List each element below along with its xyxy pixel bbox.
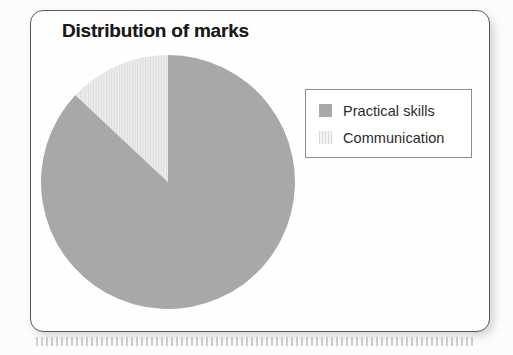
scan-artifact-strip (36, 337, 476, 346)
legend-item-communication: Communication (306, 124, 471, 151)
solid-gray-swatch-icon (319, 104, 332, 117)
figure-screenshot: Distribution of marks Practical skills C… (0, 0, 513, 355)
striped-light-swatch-icon (319, 131, 332, 144)
legend-item-practical-skills: Practical skills (306, 97, 471, 124)
chart-legend: Practical skills Communication (305, 89, 472, 158)
legend-label-practical-skills: Practical skills (343, 103, 435, 119)
pie-chart (41, 55, 295, 309)
pie-chart-svg (41, 55, 295, 309)
page-title: Distribution of marks (62, 20, 249, 42)
legend-label-communication: Communication (343, 130, 444, 146)
